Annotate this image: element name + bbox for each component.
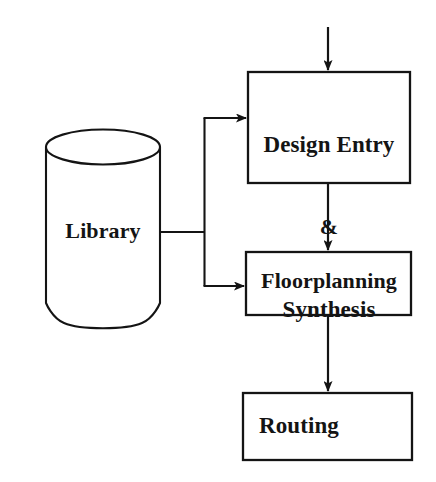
routing-label: Routing [259,412,409,439]
design-entry-line-1: Design Entry [249,131,409,158]
design-flow-diagram: Library Design Entry & Synthesis Floorpl… [0,0,436,482]
design-entry-line-2: & [249,214,409,240]
design-entry-line-3: Synthesis [249,296,409,323]
design-entry-synthesis-label: Design Entry & Synthesis [249,77,409,377]
floorplanning-label: Floorplanning [249,268,409,294]
library-label: Library [46,218,160,244]
